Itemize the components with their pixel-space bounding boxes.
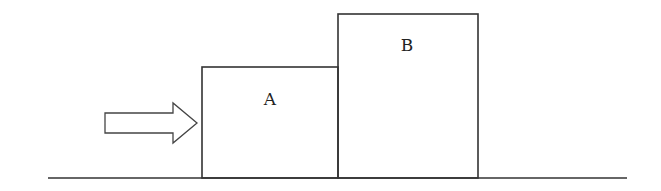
diagram-canvas: A B xyxy=(0,0,661,191)
block-b-label: B xyxy=(401,35,414,55)
block-b: B xyxy=(338,14,478,178)
block-a-shape xyxy=(202,67,338,178)
block-a: A xyxy=(202,67,338,178)
block-a-label: A xyxy=(263,89,277,109)
arrow-right-icon xyxy=(105,103,197,143)
